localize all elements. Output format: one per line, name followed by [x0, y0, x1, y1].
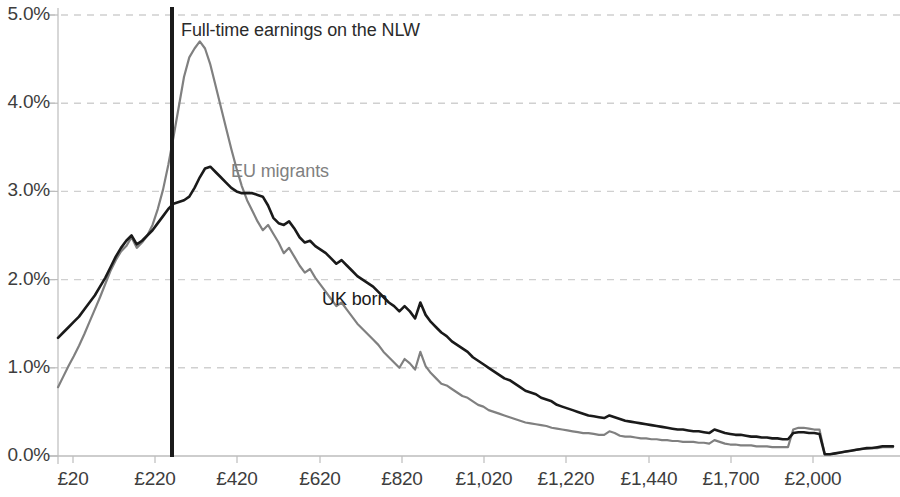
series-label-eu-migrants: EU migrants: [231, 161, 329, 182]
y-tick-label: 4.0%: [0, 91, 50, 113]
y-tick-label: 2.0%: [0, 268, 50, 290]
gridlines-group: [48, 15, 900, 368]
y-tick-label: 1.0%: [0, 356, 50, 378]
x-tick-marks-group: [48, 15, 813, 463]
x-tick-label: £2,000: [753, 468, 873, 490]
y-tick-label: 3.0%: [0, 179, 50, 201]
y-tick-label: 0.0%: [0, 444, 50, 466]
y-tick-label: 5.0%: [0, 3, 50, 25]
series-line-uk-born: [58, 167, 893, 455]
axes-group: [48, 8, 900, 464]
earnings-distribution-chart: 0.0%1.0%2.0%3.0%4.0%5.0% £20£220£420£620…: [0, 0, 900, 497]
annotation-label-nlw: Full-time earnings on the NLW: [181, 20, 420, 41]
series-label-uk-born: UK born: [322, 289, 387, 310]
chart-canvas: [0, 0, 900, 497]
